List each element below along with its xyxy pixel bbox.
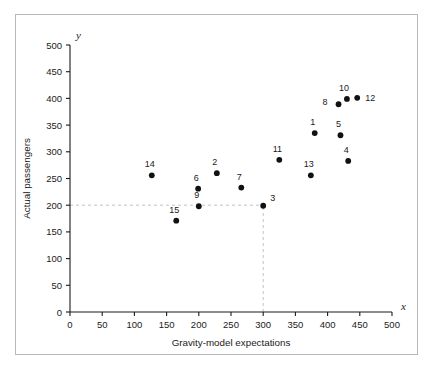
y-tick-label: 300 xyxy=(46,146,62,157)
y-tick-label: 450 xyxy=(46,66,62,77)
data-point-label: 11 xyxy=(273,144,282,154)
data-point-label: 15 xyxy=(169,205,179,215)
y-tick-label: 0 xyxy=(57,307,62,318)
x-tick-label: 400 xyxy=(320,319,336,330)
data-point-marker xyxy=(238,185,244,191)
data-point: 11 xyxy=(273,144,283,163)
data-point-marker xyxy=(276,157,282,163)
data-point: 7 xyxy=(237,172,244,191)
y-axis-title: Actual passengers xyxy=(21,138,32,219)
data-point-marker xyxy=(338,132,344,138)
data-point-marker xyxy=(260,203,266,209)
data-point-label: 10 xyxy=(339,83,349,93)
data-point-marker xyxy=(308,172,314,178)
data-point: 8 xyxy=(323,97,342,107)
data-point: 5 xyxy=(336,119,343,138)
y-tick-label: 400 xyxy=(46,93,62,104)
data-point-label: 5 xyxy=(336,119,341,129)
scatter-plot: 0501001502002503003504004505000501001502… xyxy=(16,15,417,354)
x-tick-label: 500 xyxy=(384,319,400,330)
data-point-label: 3 xyxy=(270,193,275,203)
data-point-label: 8 xyxy=(323,97,328,107)
x-tick-label: 450 xyxy=(352,319,368,330)
data-point-marker xyxy=(149,172,155,178)
y-tick-label: 350 xyxy=(46,120,62,131)
data-point-label: 12 xyxy=(365,93,375,103)
x-tick-label: 150 xyxy=(159,319,175,330)
x-tick-label: 50 xyxy=(97,319,108,330)
data-point-label: 13 xyxy=(304,159,314,169)
data-point: 3 xyxy=(260,193,275,209)
data-point: 6 xyxy=(194,173,201,192)
data-point: 1 xyxy=(310,117,317,136)
y-tick-label: 50 xyxy=(51,280,62,291)
data-point-label: 2 xyxy=(212,157,217,167)
data-point: 15 xyxy=(169,205,179,224)
data-point: 4 xyxy=(344,145,351,164)
data-point-label: 4 xyxy=(344,145,349,155)
data-point-marker xyxy=(312,130,318,136)
data-point-marker xyxy=(214,170,220,176)
y-tick-label: 150 xyxy=(46,226,62,237)
data-point-label: 1 xyxy=(310,117,315,127)
data-point-marker xyxy=(336,101,342,107)
y-tick-label: 250 xyxy=(46,173,62,184)
data-point: 12 xyxy=(354,93,375,103)
data-point-marker xyxy=(344,96,350,102)
y-axis-symbol: y xyxy=(75,29,81,41)
data-point-label: 9 xyxy=(194,190,199,200)
data-point: 13 xyxy=(304,159,314,178)
data-point-marker xyxy=(173,218,179,224)
x-tick-label: 250 xyxy=(223,319,239,330)
x-axis-symbol: x xyxy=(400,300,406,312)
data-point-label: 6 xyxy=(194,173,199,183)
data-point-marker xyxy=(196,203,202,209)
data-point-marker xyxy=(345,158,351,164)
y-tick-label: 100 xyxy=(46,253,62,264)
data-point-label: 7 xyxy=(237,172,242,182)
data-point-label: 14 xyxy=(145,159,155,169)
x-tick-label: 0 xyxy=(67,319,72,330)
data-point: 2 xyxy=(212,157,219,176)
data-point: 10 xyxy=(339,83,350,102)
data-point-marker xyxy=(354,95,360,101)
data-point: 14 xyxy=(145,159,155,178)
x-axis-title: Gravity-model expectations xyxy=(172,337,291,348)
x-tick-label: 350 xyxy=(287,319,303,330)
y-tick-label: 200 xyxy=(46,200,62,211)
x-tick-label: 300 xyxy=(255,319,271,330)
x-tick-label: 200 xyxy=(191,319,207,330)
figure-frame: 0501001502002503003504004505000501001502… xyxy=(15,14,418,355)
x-tick-label: 100 xyxy=(126,319,142,330)
y-tick-label: 500 xyxy=(46,40,62,51)
data-point: 9 xyxy=(194,190,201,209)
